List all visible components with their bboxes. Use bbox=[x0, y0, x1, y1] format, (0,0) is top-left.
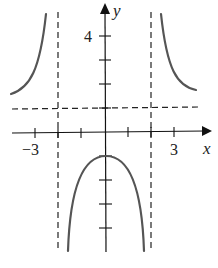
left-branch bbox=[11, 14, 46, 94]
x-axis bbox=[12, 131, 205, 133]
y-axis-label: y bbox=[111, 1, 121, 20]
x-tick-label-neg3: −3 bbox=[22, 141, 39, 158]
y-tick-label-4: 4 bbox=[84, 28, 92, 45]
x-axis-label: x bbox=[202, 139, 211, 158]
x-axis-arrow-icon bbox=[202, 126, 212, 136]
right-branch bbox=[161, 14, 196, 90]
x-tick-label-3: 3 bbox=[170, 141, 178, 158]
y-axis bbox=[105, 12, 106, 252]
function-graph: y x 4 −3 3 bbox=[0, 0, 218, 268]
y-axis-arrow-icon bbox=[100, 3, 110, 14]
